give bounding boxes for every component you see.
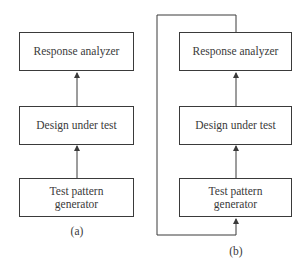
label: Design under test (36, 119, 116, 132)
label: Design under test (195, 119, 275, 132)
a-response-analyzer-block: Response analyzer (19, 32, 134, 71)
label-line1: Test pattern (209, 185, 263, 198)
caption-b: (b) (221, 245, 251, 257)
label-line1: Test pattern (50, 185, 104, 198)
a-test-pattern-generator-block: Test pattern generator (19, 178, 134, 217)
b-response-analyzer-block: Response analyzer (179, 32, 292, 71)
label: Response analyzer (34, 45, 120, 58)
label-line2: generator (214, 198, 257, 211)
b-test-pattern-generator-block: Test pattern generator (179, 178, 292, 217)
b-design-under-test-block: Design under test (179, 106, 292, 145)
label: Response analyzer (193, 45, 279, 58)
label-line2: generator (55, 198, 98, 211)
caption-a: (a) (62, 225, 92, 237)
a-design-under-test-block: Design under test (19, 106, 134, 145)
